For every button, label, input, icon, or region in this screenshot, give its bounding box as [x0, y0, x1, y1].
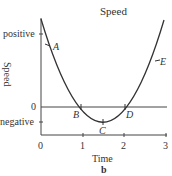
- x-tick-2: 2: [121, 141, 126, 151]
- figure-caption: b: [101, 165, 107, 175]
- point-label-d: D: [126, 110, 133, 120]
- y-tick-negative: negative: [0, 117, 34, 127]
- y-tick-zero: 0: [31, 102, 36, 112]
- point-label-a: A: [53, 42, 59, 52]
- point-label-c: C: [99, 126, 106, 136]
- x-tick-1: 1: [80, 141, 85, 151]
- x-axis-label: Time: [92, 154, 113, 164]
- speed-chart: [0, 0, 172, 176]
- y-axis-label: Speed: [2, 62, 12, 86]
- point-label-e: E: [160, 57, 166, 67]
- x-tick-3: 3: [163, 141, 168, 151]
- x-tick-0: 0: [38, 141, 43, 151]
- point-label-b: B: [73, 110, 79, 120]
- chart-title: Speed: [100, 6, 127, 16]
- y-tick-positive: positive: [3, 29, 35, 39]
